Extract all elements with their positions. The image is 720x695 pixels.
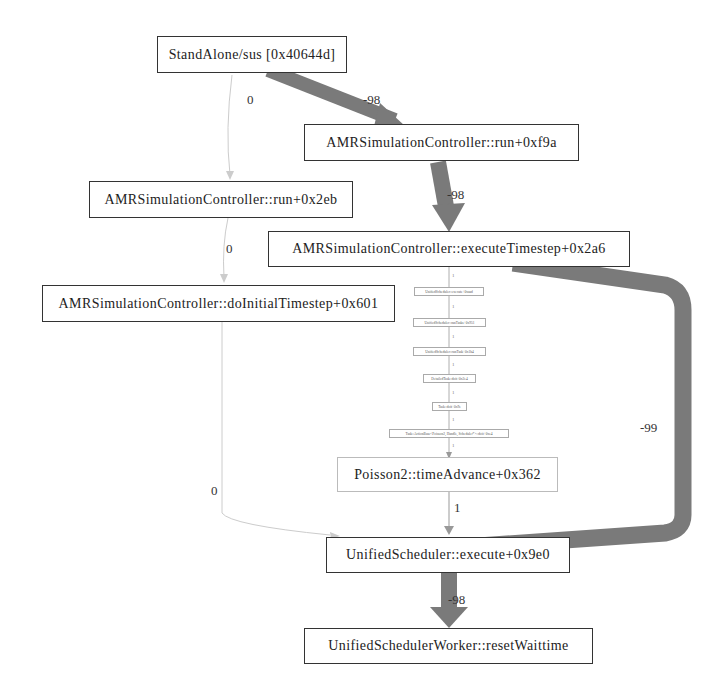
edge-label-n1-n3: -98 (447, 187, 464, 203)
node-amr-execute-timestep[interactable]: AMRSimulationController::executeTimestep… (268, 231, 630, 267)
edge-n1-n3-arrowhead (432, 203, 465, 232)
edge-label-n8-n9: 1 (452, 390, 455, 395)
edge-n0-n2 (228, 75, 232, 175)
edge-label-n3-n5: 1 (452, 273, 455, 278)
node-amr-run-0x2eb[interactable]: AMRSimulationController::run+0x2eb (89, 181, 353, 218)
edge-label-n0-n1: -98 (363, 92, 380, 108)
edge-label-n9-n10: 1 (452, 417, 455, 422)
edge-label-n5-n6: 1 (452, 304, 455, 309)
edge-layer (0, 0, 720, 695)
edge-label-n4-n12: 0 (211, 483, 218, 499)
edge-n0-n2-arrowhead (226, 171, 234, 180)
edge-label-n2-n4: 0 (226, 241, 233, 257)
node-amr-run-0xf9a[interactable]: AMRSimulationController::run+0xf9a (304, 124, 579, 161)
edge-label-n11-n12: 1 (454, 500, 461, 516)
node-unified-scheduler-worker-reset-waittime[interactable]: UnifiedSchedulerWorker::resetWaittime (304, 628, 593, 664)
edge-label-n6-n7: 1 (452, 334, 455, 339)
edge-n11-n12-arrowhead (444, 526, 454, 535)
edge-label-n10-n11: 1 (452, 443, 455, 448)
node-unified-scheduler-execute-0xaad[interactable]: UnifiedScheduler::execute+0xaad (414, 287, 484, 296)
edge-n12-n13-arrowhead (430, 607, 468, 628)
node-task-doit[interactable]: Task::doit+0x9e (432, 402, 467, 411)
edge-label-n12-n13: -98 (448, 592, 465, 608)
edge-label-n0-n2: 0 (247, 92, 254, 108)
node-unified-scheduler-execute-0x9e0[interactable]: UnifiedScheduler::execute+0x9e0 (326, 537, 570, 573)
edge-label-n3-n12: -99 (640, 420, 657, 436)
node-unified-scheduler-run-task[interactable]: UnifiedScheduler::runTask+0x1b4 (413, 347, 486, 356)
edge-label-n7-n8: 1 (452, 362, 455, 367)
edge-n4-n12 (222, 320, 330, 535)
edge-n3-n12 (378, 263, 683, 553)
node-detailed-task-doit[interactable]: DetailedTask::doit+0x2e4 (423, 374, 476, 383)
node-unified-scheduler-run-tasks[interactable]: UnifiedScheduler::runTasks+0x951 (413, 318, 486, 327)
node-task-action-base-poisson2[interactable]: Task::ActionBase<Poisson2, Handle, Sched… (389, 429, 509, 438)
node-poisson2-time-advance[interactable]: Poisson2::timeAdvance+0x362 (337, 457, 558, 492)
node-amr-do-initial-timestep[interactable]: AMRSimulationController::doInitialTimest… (42, 285, 395, 322)
node-standalone-sus[interactable]: StandAlone/sus [0x40644d] (157, 36, 347, 73)
edge-n2-n4-arrowhead (220, 274, 228, 283)
